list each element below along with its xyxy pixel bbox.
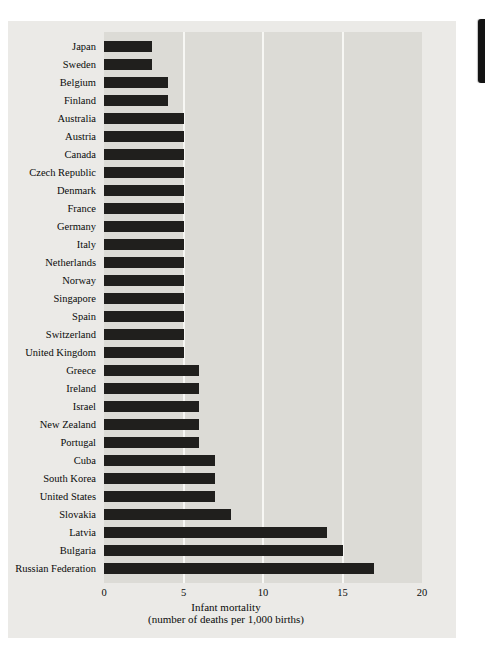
bar-track	[104, 236, 422, 254]
bar	[104, 473, 215, 484]
bar-row: Switzerland	[8, 326, 422, 344]
bar	[104, 167, 184, 178]
bar-track	[104, 523, 422, 541]
x-tick-label: 0	[101, 587, 106, 599]
bar	[104, 95, 168, 106]
bar-track	[104, 308, 422, 326]
bar	[104, 77, 168, 88]
bar-track	[104, 290, 422, 308]
country-label: Finland	[8, 95, 104, 106]
bar-track	[104, 559, 422, 577]
bar-track	[104, 415, 422, 433]
bar	[104, 383, 199, 394]
country-label: Switzerland	[8, 329, 104, 340]
bar	[104, 275, 184, 286]
bar-row: France	[8, 200, 422, 218]
bar	[104, 545, 343, 556]
country-label: Singapore	[8, 293, 104, 304]
bar	[104, 311, 184, 322]
bar-track	[104, 110, 422, 128]
bar-track	[104, 254, 422, 272]
bar-row: Belgium	[8, 74, 422, 92]
bar	[104, 149, 184, 160]
bar-row: Czech Republic	[8, 164, 422, 182]
bar-row: Norway	[8, 272, 422, 290]
x-axis-ticks: 05101520	[104, 587, 422, 600]
bar-track	[104, 487, 422, 505]
country-label: Italy	[8, 239, 104, 250]
bar-row: United States	[8, 487, 422, 505]
bar-track	[104, 397, 422, 415]
bar	[104, 419, 199, 430]
bar-row: United Kingdom	[8, 343, 422, 361]
bar	[104, 509, 231, 520]
bar-track	[104, 469, 422, 487]
x-axis-title-line2: (number of deaths per 1,000 births)	[148, 614, 304, 626]
bar	[104, 59, 152, 70]
country-label: Belgium	[8, 77, 104, 88]
x-tick-label: 20	[417, 587, 428, 599]
bar-track	[104, 541, 422, 559]
country-label: Russian Federation	[8, 563, 104, 574]
country-label: Slovakia	[8, 509, 104, 520]
country-label: Norway	[8, 275, 104, 286]
bar-row: Germany	[8, 218, 422, 236]
bar	[104, 293, 184, 304]
page-edge-ink-mark	[478, 19, 485, 83]
bar-track	[104, 128, 422, 146]
bar-row: Greece	[8, 361, 422, 379]
bar-row: Ireland	[8, 379, 422, 397]
bar	[104, 203, 184, 214]
country-label: France	[8, 203, 104, 214]
country-label: Portugal	[8, 437, 104, 448]
bar-track	[104, 451, 422, 469]
bar-row: Spain	[8, 308, 422, 326]
bar-row: Slovakia	[8, 505, 422, 523]
country-label: Australia	[8, 113, 104, 124]
bar-row: South Korea	[8, 469, 422, 487]
bar-track	[104, 379, 422, 397]
bar-track	[104, 164, 422, 182]
bar	[104, 401, 199, 412]
country-label: Ireland	[8, 383, 104, 394]
bar-rows: Japan Sweden Belgium Finland Australia A…	[8, 32, 422, 583]
country-label: Israel	[8, 401, 104, 412]
country-label: United States	[8, 491, 104, 502]
chart-body: Japan Sweden Belgium Finland Australia A…	[8, 32, 422, 583]
bar-row: New Zealand	[8, 415, 422, 433]
bar-row: Austria	[8, 128, 422, 146]
x-tick-label: 15	[337, 587, 348, 599]
bar-row: Japan	[8, 38, 422, 56]
scanned-page: Japan Sweden Belgium Finland Australia A…	[0, 0, 485, 647]
bar	[104, 491, 215, 502]
bar-track	[104, 361, 422, 379]
bar	[104, 455, 215, 466]
bar-row: Israel	[8, 397, 422, 415]
country-label: Denmark	[8, 185, 104, 196]
country-label: Bulgaria	[8, 545, 104, 556]
bar-track	[104, 74, 422, 92]
bar-row: Italy	[8, 236, 422, 254]
bar-row: Denmark	[8, 182, 422, 200]
bar-row: Latvia	[8, 523, 422, 541]
bar	[104, 185, 184, 196]
bar-track	[104, 326, 422, 344]
country-label: Greece	[8, 365, 104, 376]
bar	[104, 221, 184, 232]
bar	[104, 365, 199, 376]
bar-row: Netherlands	[8, 254, 422, 272]
bar-track	[104, 92, 422, 110]
bar-row: Portugal	[8, 433, 422, 451]
bar-row: Finland	[8, 92, 422, 110]
x-tick-label: 10	[258, 587, 269, 599]
bar-track	[104, 56, 422, 74]
bar	[104, 131, 184, 142]
country-label: Sweden	[8, 59, 104, 70]
bar-track	[104, 218, 422, 236]
country-label: United Kingdom	[8, 347, 104, 358]
bar	[104, 437, 199, 448]
bar-track	[104, 200, 422, 218]
bar-row: Singapore	[8, 290, 422, 308]
bar	[104, 527, 327, 538]
bar	[104, 257, 184, 268]
